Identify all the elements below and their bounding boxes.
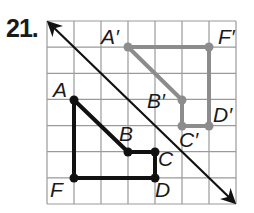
- vertex-label-D′: D′: [213, 103, 233, 126]
- vertex-point-F: [70, 174, 79, 183]
- vertex-label-A′: A′: [99, 25, 120, 48]
- vertex-label-B′: B′: [147, 89, 166, 112]
- coordinate-grid-diagram: ABCDF A′F′D′C′B′: [0, 0, 254, 213]
- image-figure-outline: [128, 47, 209, 126]
- vertex-point-F′: [205, 43, 214, 52]
- vertex-label-C: C: [158, 147, 174, 170]
- vertex-point-B′: [178, 96, 187, 105]
- vertex-label-C′: C′: [179, 128, 199, 151]
- image-figure-A-prime-F-prime: [124, 43, 214, 131]
- vertex-label-B: B: [119, 122, 133, 145]
- vertex-point-A′: [124, 43, 133, 52]
- vertex-point-A: [70, 96, 79, 105]
- vertex-label-F: F: [50, 178, 64, 201]
- vertex-label-D: D: [155, 178, 170, 201]
- original-figure-ABCDF: [70, 96, 160, 183]
- vertex-label-F′: F′: [218, 25, 236, 48]
- vertex-label-A: A: [51, 78, 67, 101]
- vertex-point-B: [124, 148, 133, 157]
- original-figure-outline: [74, 100, 155, 178]
